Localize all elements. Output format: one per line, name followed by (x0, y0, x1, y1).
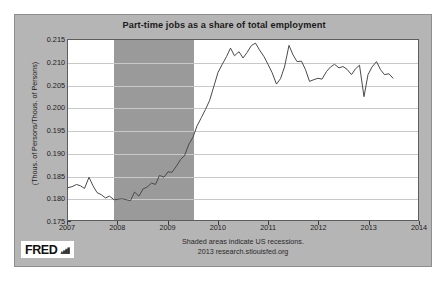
fred-chart-figure: Part-time jobs as a share of total emplo… (14, 14, 432, 267)
series-polyline (68, 43, 393, 201)
bar-chart-glyph (60, 245, 71, 255)
y-axis-tick-label: 0.215 (35, 35, 65, 44)
x-axis-tick-label: 2012 (301, 223, 335, 232)
y-axis-tick-label: 0.185 (35, 172, 65, 181)
fred-wordmark: FRED (25, 243, 57, 257)
x-axis-tick-label: 2008 (100, 223, 134, 232)
x-axis-tick-label: 2007 (50, 223, 84, 232)
y-axis-tick-label: 0.195 (35, 126, 65, 135)
chart-title: Part-time jobs as a share of total emplo… (15, 20, 433, 30)
footer-note: Shaded areas indicate US recessions. 201… (67, 237, 419, 257)
footer-source-note: 2013 research.stlouisfed.org (67, 247, 419, 257)
x-axis-tick-label: 2010 (201, 223, 235, 232)
x-axis-tick-label: 2013 (352, 223, 386, 232)
x-axis-tick-label: 2009 (151, 223, 185, 232)
x-axis-tick-label: 2014 (402, 223, 436, 232)
y-axis-tick-label: 0.200 (35, 103, 65, 112)
fred-logo[interactable]: FRED (21, 241, 74, 258)
y-axis-tick-labels: 0.1750.1800.1850.1900.1950.2000.2050.210… (31, 39, 65, 221)
series-line-chart (68, 40, 418, 220)
y-axis-tick-label: 0.180 (35, 194, 65, 203)
plot-inner (68, 40, 418, 220)
plot-area (67, 39, 419, 221)
x-axis-tick-labels: 20072008200920102011201220132014 (67, 223, 419, 235)
y-axis-tick-label: 0.205 (35, 81, 65, 90)
y-axis-tick-label: 0.190 (35, 149, 65, 158)
footer-recession-note: Shaded areas indicate US recessions. (67, 237, 419, 247)
y-axis-tick-label: 0.210 (35, 58, 65, 67)
x-axis-tick-label: 2011 (251, 223, 285, 232)
